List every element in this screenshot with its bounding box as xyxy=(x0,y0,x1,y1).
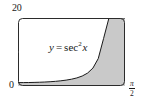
equation-argument: x xyxy=(83,41,88,53)
figure-container: 20 0 π 2 y=sec2 x xyxy=(0,0,145,104)
pi-over-two-fraction: π 2 xyxy=(129,80,135,97)
fraction-denominator: 2 xyxy=(129,90,135,98)
origin-label: 0 xyxy=(9,80,14,90)
equation-function: sec xyxy=(64,41,78,53)
y-axis-max-label: 20 xyxy=(12,3,22,13)
fraction-numerator: π xyxy=(129,80,135,88)
equation-operator: = xyxy=(54,41,64,53)
plot-area: y=sec2 x xyxy=(18,18,125,86)
x-axis-max-label: π 2 xyxy=(129,80,135,98)
equation-exponent: 2 xyxy=(78,40,82,48)
curve-equation-label: y=sec2 x xyxy=(49,42,87,53)
